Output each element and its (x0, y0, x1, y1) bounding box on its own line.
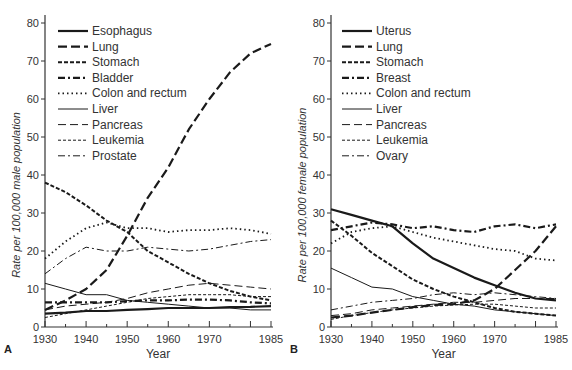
legend-label: Uterus (376, 24, 411, 38)
legend-label: Stomach (376, 55, 423, 69)
y-axis-title: Rate per 100,000 female population (296, 108, 308, 283)
legend-label: Ovary (376, 149, 408, 163)
legend-label: Esophagus (92, 24, 152, 38)
legend-label: Pancreas (376, 118, 427, 132)
x-tick-label: 1940 (360, 333, 384, 345)
y-tick-label: 50 (313, 131, 325, 143)
series-line-pancreas (45, 283, 271, 310)
x-axis-title: Year (431, 347, 455, 361)
x-tick-label: 1970 (197, 333, 221, 345)
y-tick-label: 60 (27, 93, 39, 105)
legend-label: Colon and rectum (92, 86, 187, 100)
y-tick-label: 20 (27, 245, 39, 257)
legend-label: Breast (376, 71, 411, 85)
x-tick-label: 1985 (259, 333, 283, 345)
series-line-leukemia (331, 304, 556, 319)
chart-panel-female: 0102030405060708019301940195019601970198… (290, 15, 568, 361)
series-line-esophagus (45, 306, 271, 314)
chart-panel-male: 0102030405060708019301940195019601970198… (4, 15, 283, 361)
legend-label: Liver (376, 102, 402, 116)
y-tick-label: 10 (313, 283, 325, 295)
legend-label: Lung (92, 40, 119, 54)
y-tick-label: 0 (319, 321, 325, 333)
y-tick-label: 70 (27, 55, 39, 67)
series-line-lung (45, 44, 271, 310)
y-axis-title: Rate per 100,000 male population (10, 112, 22, 278)
legend-label: Stomach (92, 55, 139, 69)
x-tick-label: 1950 (401, 333, 425, 345)
y-tick-label: 40 (313, 169, 325, 181)
x-tick-label: 1940 (74, 333, 98, 345)
legend-label: Lung (376, 40, 403, 54)
y-tick-label: 80 (27, 17, 39, 29)
legend-label: Liver (92, 102, 118, 116)
x-tick-label: 1970 (482, 333, 506, 345)
series-line-stomach (331, 221, 556, 316)
y-tick-label: 10 (27, 283, 39, 295)
cancer-mortality-chart: 0102030405060708019301940195019601970198… (0, 0, 572, 370)
y-tick-label: 50 (27, 131, 39, 143)
series-line-stomach (45, 183, 271, 301)
x-tick-label: 1950 (115, 333, 139, 345)
y-tick-label: 0 (33, 321, 39, 333)
y-tick-label: 30 (27, 207, 39, 219)
y-tick-label: 70 (313, 55, 325, 67)
y-tick-label: 40 (27, 169, 39, 181)
legend-label: Leukemia (92, 133, 144, 147)
series-line-colon-and-rectum (331, 226, 556, 260)
legend-label: Pancreas (92, 118, 143, 132)
x-tick-label: 1985 (544, 333, 568, 345)
y-tick-label: 30 (313, 207, 325, 219)
series-line-colon-and-rectum (45, 223, 271, 259)
x-tick-label: 1960 (441, 333, 465, 345)
legend-label: Bladder (92, 71, 133, 85)
legend-label: Colon and rectum (376, 86, 471, 100)
x-tick-label: 1960 (156, 333, 180, 345)
series-line-breast (331, 223, 556, 233)
x-tick-label: 1930 (319, 333, 343, 345)
y-tick-label: 80 (313, 17, 325, 29)
y-tick-label: 20 (313, 245, 325, 257)
legend-label: Leukemia (376, 133, 428, 147)
y-tick-label: 60 (313, 93, 325, 105)
x-tick-label: 1930 (33, 333, 57, 345)
x-axis-title: Year (146, 347, 170, 361)
panel-label: A (4, 343, 12, 355)
legend-label: Prostate (92, 149, 137, 163)
panel-label: B (290, 343, 298, 355)
series-line-liver (45, 283, 271, 310)
